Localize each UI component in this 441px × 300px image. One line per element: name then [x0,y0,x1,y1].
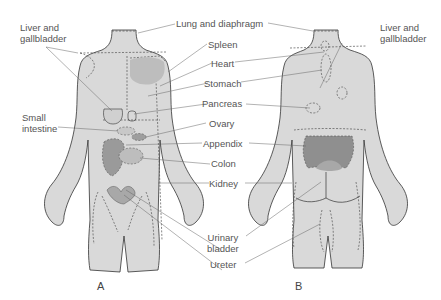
label-lung-diaphragm: Lung and diaphragm [176,18,263,29]
label-urinary-bladder: Urinary bladder [207,232,239,254]
referred-pain-diagram: Liver and gallbladder Lung and diaphragm… [0,0,441,300]
label-kidney: Kidney [209,178,238,189]
label-appendix: Appendix [203,138,243,149]
panel-label-a: A [97,280,104,292]
label-line: gallbladder [20,33,66,44]
ovary-region [132,134,146,141]
label-ureter: Ureter [210,259,236,270]
small-intestine-region [117,127,135,135]
label-liver-gallbladder-front: Liver and gallbladder [20,22,66,44]
label-stomach: Stomach [204,78,242,89]
label-heart: Heart [211,58,234,69]
label-ovary: Ovary [209,118,234,129]
liver-gallbladder-region-front [103,109,122,124]
label-line: gallbladder [380,33,426,44]
label-line: intestine [22,123,57,134]
label-colon: Colon [211,158,236,169]
label-line: bladder [207,243,239,254]
label-line: Urinary [207,232,239,243]
label-liver-gallbladder-back: Liver and gallbladder [380,22,426,44]
label-pancreas: Pancreas [202,98,242,109]
label-line: Liver and [20,22,66,33]
label-small-intestine: Small intestine [22,112,57,134]
panel-label-b: B [295,280,302,292]
colon-region [119,148,143,164]
label-line: Small [22,112,57,123]
label-line: Liver and [380,22,426,33]
label-spleen: Spleen [208,39,238,50]
